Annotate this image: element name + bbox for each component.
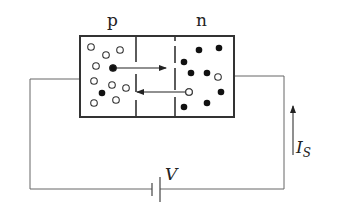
hole: [215, 74, 222, 81]
electron: [218, 89, 225, 96]
electron: [204, 100, 211, 107]
left-wire: [30, 79, 152, 189]
electron: [181, 104, 188, 111]
electron: [216, 45, 223, 52]
depletion-region-boundaries: [136, 36, 175, 117]
hole: [93, 63, 100, 70]
hole: [103, 52, 110, 59]
hole: [117, 47, 124, 54]
electron: [204, 70, 211, 77]
current-subscript: S: [303, 146, 311, 160]
p-region-carriers: [88, 44, 130, 107]
hole: [109, 82, 116, 89]
hole: [91, 78, 98, 85]
pn-junction-box: [80, 36, 234, 117]
hole: [123, 85, 130, 92]
hole: [91, 100, 98, 107]
hole: [88, 44, 95, 51]
pn-junction-diagram: p n V IS: [0, 0, 337, 211]
electron: [110, 65, 117, 72]
hole: [186, 89, 193, 96]
hole: [113, 97, 120, 104]
current-label: IS: [295, 137, 311, 160]
voltage-label: V: [165, 164, 179, 184]
n-region-carriers: [181, 45, 225, 111]
p-region-label: p: [107, 10, 118, 30]
electron: [99, 90, 106, 97]
electron: [188, 70, 195, 77]
drift-arrows: [110, 65, 193, 96]
electron: [196, 47, 203, 54]
battery-symbol: [152, 177, 160, 202]
external-circuit: [30, 76, 284, 189]
n-region-label: n: [196, 10, 207, 30]
electron: [181, 59, 188, 66]
